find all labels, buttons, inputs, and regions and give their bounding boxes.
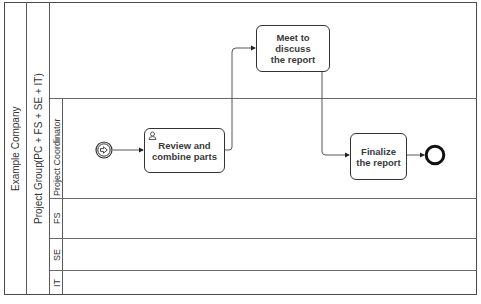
task-label-line: Review and bbox=[158, 140, 210, 151]
task-label-line: the report bbox=[271, 54, 315, 65]
sequence-flows bbox=[0, 0, 481, 304]
task-review-and-combine-parts[interactable]: Review and combine parts bbox=[144, 128, 225, 173]
task-label-line: combine parts bbox=[152, 151, 217, 162]
task-label-line: the report bbox=[356, 157, 400, 168]
task-label-line: Finalize bbox=[361, 146, 396, 157]
end-event[interactable] bbox=[424, 144, 446, 166]
arrow-right-icon bbox=[95, 141, 113, 159]
task-label-line: Meet to bbox=[276, 32, 309, 43]
end-circle-icon bbox=[424, 144, 446, 166]
start-event[interactable] bbox=[95, 141, 113, 159]
task-meet-to-discuss-the-report[interactable]: Meet to discuss the report bbox=[256, 25, 330, 72]
task-label-line: discuss bbox=[275, 43, 310, 54]
task-finalize-the-report[interactable]: Finalize the report bbox=[350, 133, 407, 180]
user-icon bbox=[148, 131, 157, 140]
